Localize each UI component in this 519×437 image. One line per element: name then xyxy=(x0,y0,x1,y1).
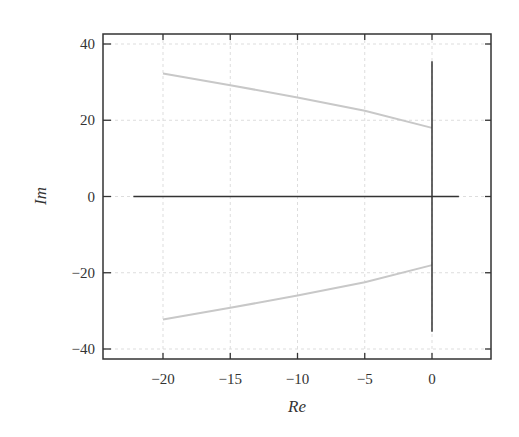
axis-ticks: −20−15−10−50−40−2002040 xyxy=(72,34,491,387)
x-tick-label: 0 xyxy=(428,371,436,387)
y-tick-label: −20 xyxy=(72,265,95,281)
x-tick-label: −5 xyxy=(357,371,373,387)
x-tick-label: −10 xyxy=(286,371,309,387)
y-tick-label: 40 xyxy=(80,36,95,52)
data-series xyxy=(133,61,459,332)
y-tick-label: −40 xyxy=(72,341,95,357)
root-locus-chart: −20−15−10−50−40−2002040 Re Im xyxy=(0,0,519,437)
x-axis-label: Re xyxy=(287,397,306,416)
y-axis-label: Im xyxy=(31,187,50,206)
y-tick-label: 20 xyxy=(80,112,95,128)
x-tick-label: −15 xyxy=(219,371,242,387)
y-tick-label: 0 xyxy=(88,189,96,205)
x-tick-label: −20 xyxy=(151,371,174,387)
